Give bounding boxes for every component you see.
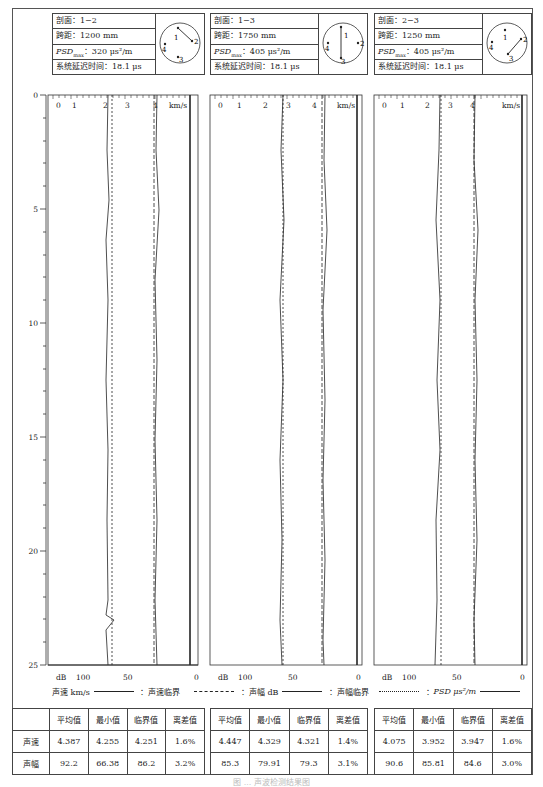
- chart-panel-1-2: 01234km/s dB100500: [48, 95, 199, 682]
- depth-tick-labels: 0510 152025: [28, 91, 38, 670]
- svg-text:4: 4: [312, 101, 317, 110]
- svg-text:dB: dB: [218, 673, 229, 682]
- svg-text:dB: dB: [56, 673, 67, 682]
- legend-velocity-critical: ：声速临界: [140, 686, 180, 697]
- svg-text:1: 1: [237, 101, 242, 110]
- svg-text:5: 5: [33, 205, 38, 214]
- svg-text:2: 2: [425, 101, 430, 110]
- svg-text:100: 100: [238, 673, 253, 682]
- legend-psd: PSD μs²/m: [434, 687, 477, 696]
- svg-text:50: 50: [288, 673, 298, 682]
- depth-axis: [40, 95, 46, 665]
- svg-text:km/s: km/s: [502, 101, 520, 110]
- svg-text:0: 0: [33, 91, 38, 100]
- svg-text:km/s: km/s: [337, 101, 355, 110]
- legend-amplitude: ：声幅 dB: [241, 686, 279, 697]
- svg-text:2: 2: [103, 101, 108, 110]
- stats-table-1-3: 平均值最小值临界值离差值 4.4474.3294.3211.4% 85.379.…: [210, 708, 368, 775]
- svg-text:25: 25: [28, 661, 38, 670]
- profile-charts: 0510 152025 01234km/s dB100500 01234km/s…: [0, 0, 543, 700]
- chart-panel-2-3: 01234km/s dB100500: [374, 95, 527, 682]
- svg-text:50: 50: [452, 673, 462, 682]
- svg-text:0: 0: [382, 101, 387, 110]
- svg-text:0: 0: [520, 673, 525, 682]
- stats-table-2-3: 平均值最小值临界值离差值 4.0753.9523.9471.6% 90.685.…: [374, 708, 532, 775]
- svg-text:1: 1: [400, 101, 405, 110]
- svg-text:50: 50: [123, 673, 133, 682]
- svg-text:km/s: km/s: [169, 101, 187, 110]
- svg-text:2: 2: [263, 101, 268, 110]
- svg-text:1: 1: [72, 101, 77, 110]
- stats-table-1-2: 平均值最小值临界值离差值 声速4.3874.2554.2511.6% 声幅92.…: [12, 708, 205, 775]
- svg-text:0: 0: [56, 101, 61, 110]
- legend-amplitude-critical: ：声幅临界: [329, 686, 369, 697]
- svg-text:0: 0: [356, 673, 361, 682]
- svg-text:100: 100: [76, 673, 91, 682]
- svg-text:10: 10: [28, 319, 38, 328]
- svg-text:100: 100: [402, 673, 417, 682]
- svg-text:15: 15: [28, 433, 38, 442]
- legend-velocity: 声速 km/s: [52, 686, 90, 697]
- svg-text:3: 3: [125, 101, 130, 110]
- svg-text:0: 0: [194, 673, 199, 682]
- chart-panel-1-3: 01234km/s dB100500: [210, 95, 362, 682]
- svg-text:dB: dB: [382, 673, 393, 682]
- svg-text:20: 20: [28, 547, 38, 556]
- svg-text:3: 3: [448, 101, 453, 110]
- chart-legend: 声速 km/s ：声速临界 ：声幅 dB ：声幅临界 ：PSD μs²/m: [52, 686, 524, 697]
- svg-text:0: 0: [218, 101, 223, 110]
- figure-caption: 图 ... 声波检测结果图: [0, 776, 543, 787]
- svg-text:3: 3: [286, 101, 291, 110]
